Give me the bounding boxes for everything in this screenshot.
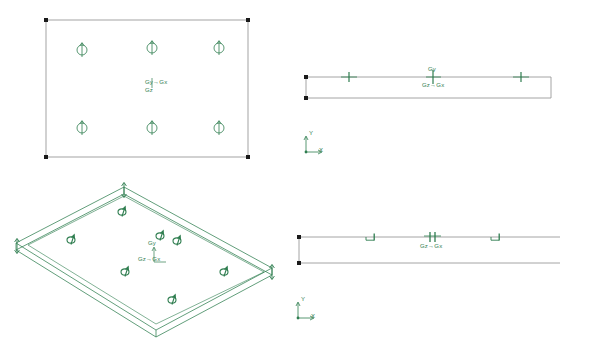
plan-view-label-top: Gy→Gx: [145, 79, 167, 86]
elevation-top-label-top: Gy: [428, 66, 436, 73]
elevation-bottom-label-center: Gz→Gx: [420, 243, 442, 250]
axis-label-x-top-right: X: [319, 147, 323, 154]
isometric-label-bottom: Gz→Gx: [138, 256, 160, 263]
isometric-label-top: Gy: [148, 240, 156, 247]
drawing-canvas: Gy→Gx Gz Gy Gz→Gx Gy Gz→Gx Gz→Gx Y X Y X: [0, 0, 589, 360]
axis-label-y-bottom-right: Y: [301, 296, 305, 303]
axis-label-y-top-right: Y: [309, 130, 313, 137]
elevation-top-label-bottom: Gz→Gx: [422, 82, 444, 89]
axis-label-x-bottom-right: X: [311, 313, 315, 320]
cad-drawing-svg: [0, 0, 589, 360]
plan-view-label-bottom: Gz: [145, 87, 153, 94]
